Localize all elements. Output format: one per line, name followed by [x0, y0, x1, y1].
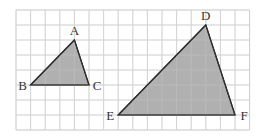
similar-triangles-diagram: A B C D E F	[0, 0, 265, 139]
vertex-label-e: E	[106, 108, 114, 123]
vertex-label-d: D	[201, 8, 210, 23]
vertex-label-c: C	[93, 78, 102, 93]
vertex-label-a: A	[70, 23, 80, 38]
vertex-label-b: B	[18, 78, 27, 93]
vertex-label-f: F	[240, 108, 247, 123]
triangles	[16, 10, 250, 130]
